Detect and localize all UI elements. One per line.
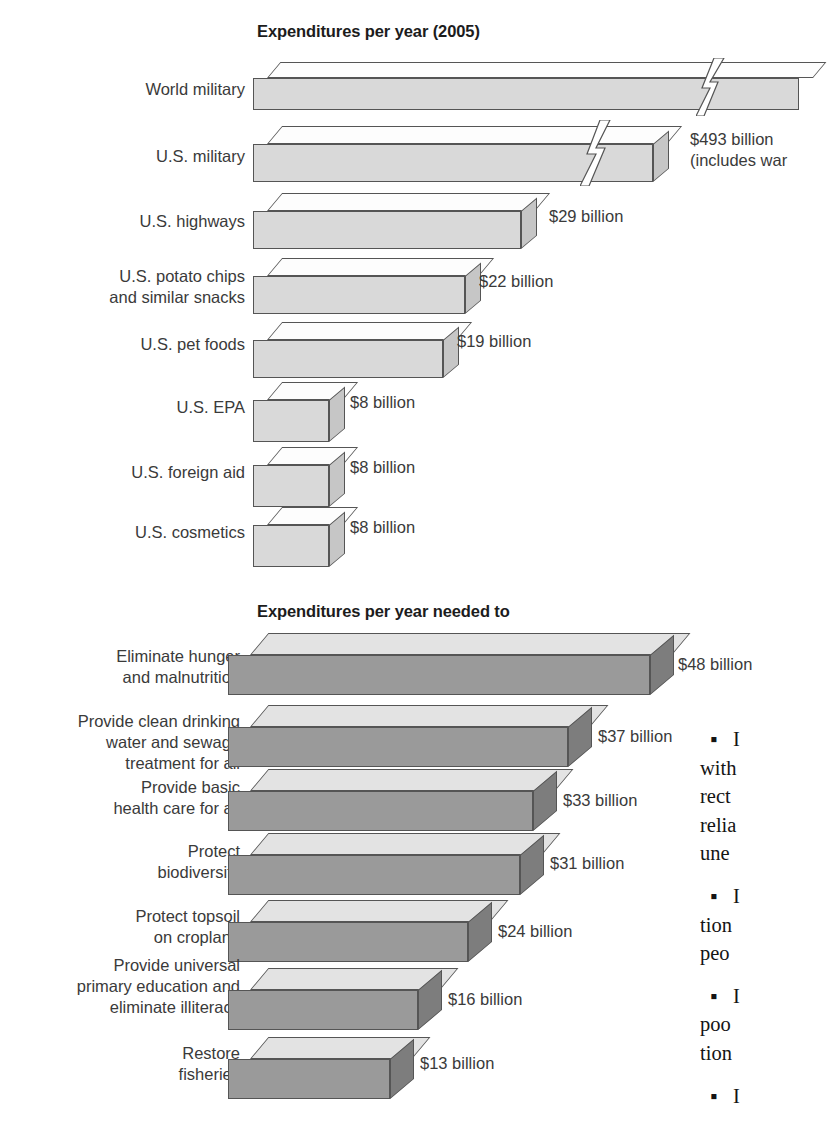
bar-label-protect-topsoil: Protect topsoil on cropland [0, 906, 240, 948]
bar-label-world-military: World military [0, 79, 245, 100]
bar-protect-topsoil [228, 900, 518, 962]
bar-front-face [228, 727, 568, 767]
bar-eliminate-hunger [228, 633, 678, 695]
bar-world-military [253, 62, 813, 110]
bar-us-highways [253, 193, 553, 249]
bar-label-us-potato-chips: U.S. potato chips and similar snacks [0, 266, 245, 308]
bar-front-face [228, 990, 418, 1030]
bar-label-restore-fisheries: Restore fisheries [0, 1043, 240, 1085]
bar-top-face [250, 633, 690, 655]
bar-front-face [253, 525, 329, 567]
bar-value-us-pet-foods: $19 billion [457, 331, 531, 352]
bar-us-epa [253, 382, 363, 442]
bar-top-face [267, 322, 472, 340]
bar-value-us-cosmetics: $8 billion [350, 517, 415, 538]
bar-front-face [253, 465, 329, 507]
body-paragraph: ▪ I poo tion [700, 982, 831, 1068]
bar-top-face [250, 705, 608, 727]
bar-value-us-highways: $29 billion [549, 206, 623, 227]
bar-label-us-epa: U.S. EPA [0, 397, 245, 418]
bar-label-us-foreign-aid: U.S. foreign aid [0, 462, 245, 483]
bar-top-face [267, 62, 826, 78]
bar-front-face [228, 922, 468, 962]
bar-label-us-highways: U.S. highways [0, 211, 245, 232]
bar-us-cosmetics [253, 507, 363, 567]
bar-clean-water [228, 705, 618, 767]
body-text-column: ▪ I with rect relia une ▪ I tion peo ▪ I… [700, 725, 831, 1124]
bar-label-clean-water: Provide clean drinking water and sewage … [0, 711, 240, 774]
bar-value-primary-education: $16 billion [448, 989, 522, 1010]
bar-basic-health-care [228, 769, 578, 831]
bar-top-face [267, 193, 550, 211]
bar-front-face [253, 211, 521, 249]
bar-us-potato-chips [253, 258, 503, 314]
bar-front-face [253, 340, 443, 378]
bar-label-us-pet-foods: U.S. pet foods [0, 334, 245, 355]
bar-value-us-military: $493 billion (includes war [690, 129, 787, 171]
bar-front-face [253, 276, 465, 314]
bar-value-clean-water: $37 billion [598, 726, 672, 747]
bar-primary-education [228, 968, 468, 1030]
bar-value-basic-health-care: $33 billion [563, 790, 637, 811]
bar-front-face [228, 791, 533, 831]
bar-value-protect-biodiversity: $31 billion [550, 853, 624, 874]
bar-value-us-epa: $8 billion [350, 392, 415, 413]
bar-value-restore-fisheries: $13 billion [420, 1053, 494, 1074]
bar-us-military [253, 126, 683, 182]
bar-label-eliminate-hunger: Eliminate hunger and malnutrition [0, 646, 240, 688]
top-chart-title: Expenditures per year (2005) [257, 22, 480, 41]
bar-value-eliminate-hunger: $48 billion [678, 654, 752, 675]
bar-protect-biodiversity [228, 833, 568, 895]
body-paragraph: ▪ I tion peo [700, 882, 831, 968]
bar-value-protect-topsoil: $24 billion [498, 921, 572, 942]
bar-label-us-cosmetics: U.S. cosmetics [0, 522, 245, 543]
bar-us-foreign-aid [253, 447, 363, 507]
bar-front-face [253, 144, 653, 182]
bar-label-primary-education: Provide universal primary education and … [0, 955, 240, 1018]
bar-value-us-foreign-aid: $8 billion [350, 457, 415, 478]
bar-top-face [250, 769, 573, 791]
bar-us-pet-foods [253, 322, 483, 378]
body-paragraph: ▪ I with rect relia une [700, 725, 831, 868]
bar-value-us-potato-chips: $22 billion [479, 271, 553, 292]
bar-front-face [228, 855, 520, 895]
bar-label-basic-health-care: Provide basic health care for all [0, 777, 240, 819]
bar-label-us-military: U.S. military [0, 146, 245, 167]
bar-label-protect-biodiversity: Protect biodiversity [0, 841, 240, 883]
bottom-chart-title: Expenditures per year needed to [257, 602, 510, 621]
body-paragraph: ▪ I [700, 1082, 831, 1111]
bar-front-face [228, 1059, 390, 1099]
bar-front-face [228, 655, 650, 695]
bar-front-face [253, 400, 329, 442]
bar-restore-fisheries [228, 1037, 448, 1099]
bar-top-face [267, 258, 494, 276]
bar-front-face [253, 78, 799, 110]
bar-top-face [250, 900, 508, 922]
bar-top-face [267, 126, 682, 144]
bar-top-face [250, 833, 560, 855]
